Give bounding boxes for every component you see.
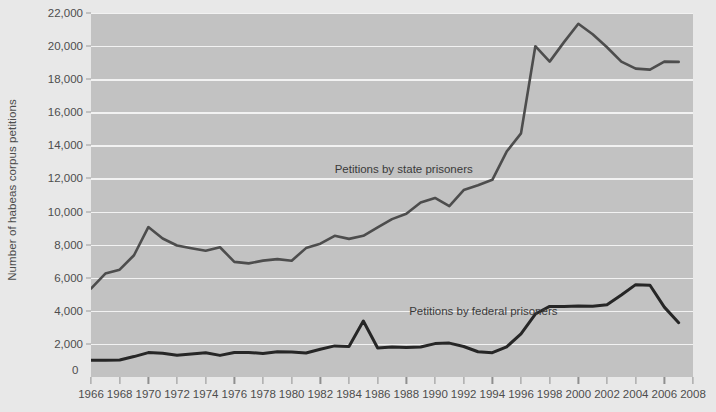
- series-line: [91, 24, 679, 289]
- x-axis-tick-mark: [434, 377, 435, 384]
- annotation-federal-prisoners: Petitions by federal prisoners: [409, 305, 557, 317]
- x-axis-tick-label: 1982: [308, 388, 334, 400]
- y-axis-tick-label: 16,000: [48, 106, 83, 118]
- annotation-state-prisoners: Petitions by state prisoners: [335, 163, 473, 175]
- x-axis-tick-label: 1986: [365, 388, 391, 400]
- x-axis-tick-label: 1994: [480, 388, 506, 400]
- y-axis-tick-label: 12,000: [48, 172, 83, 184]
- x-axis-tick-label: 2000: [566, 388, 592, 400]
- series-line: [91, 285, 679, 361]
- x-axis-tick-mark: [176, 377, 177, 384]
- y-axis-tick-label: 10,000: [48, 206, 83, 218]
- x-axis-tick-label: 1996: [508, 388, 534, 400]
- y-axis-tick-label: 4,000: [54, 305, 83, 317]
- plot-area: Petitions by state prisoners Petitions b…: [91, 13, 693, 377]
- x-axis-tick-label: 1968: [107, 388, 133, 400]
- x-axis-tick-label: 2006: [652, 388, 678, 400]
- x-axis-tick-mark: [635, 377, 636, 384]
- x-axis-tick-label: 1980: [279, 388, 305, 400]
- habeas-corpus-line-chart: Number of habeas corpus petitions 2,0004…: [0, 0, 716, 412]
- x-axis-tick-label: 1984: [336, 388, 362, 400]
- y-axis-tick-label: 14,000: [48, 139, 83, 151]
- y-axis-title-text: Number of habeas corpus petitions: [6, 99, 18, 281]
- x-axis-tick-label: 1976: [222, 388, 248, 400]
- x-axis-tick-label: 1988: [394, 388, 420, 400]
- x-axis-tick-label: 1992: [451, 388, 477, 400]
- x-axis-tick-label: 1998: [537, 388, 563, 400]
- y-axis-tick-label: 20,000: [48, 40, 83, 52]
- x-axis-tick-label: 2002: [594, 388, 620, 400]
- x-axis-tick-label: 2004: [623, 388, 649, 400]
- x-axis-tick-mark: [406, 377, 407, 384]
- x-axis-tick-mark: [664, 377, 665, 384]
- x-axis-tick-mark: [234, 377, 235, 384]
- y-axis-title: Number of habeas corpus petitions: [0, 0, 24, 380]
- x-axis-tick-mark: [148, 377, 149, 384]
- x-axis-tick-labels: 1966196819701972197419761978198019821984…: [91, 377, 693, 412]
- y-axis-tick-labels: 2,0004,0006,0008,00010,00012,00014,00016…: [24, 0, 91, 412]
- x-axis-tick-mark: [549, 377, 550, 384]
- y-axis-tick-label: 8,000: [54, 239, 83, 251]
- x-axis-tick-mark: [692, 377, 693, 384]
- x-axis-tick-mark: [119, 377, 120, 384]
- x-axis-tick-label: 2008: [680, 388, 706, 400]
- x-axis-tick-label: 1978: [250, 388, 276, 400]
- data-lines: [91, 13, 693, 377]
- x-axis-tick-label: 1970: [136, 388, 162, 400]
- y-axis-tick-label: 6,000: [54, 272, 83, 284]
- x-axis-tick-label: 1990: [422, 388, 448, 400]
- x-axis-tick-mark: [463, 377, 464, 384]
- x-axis-tick-mark: [492, 377, 493, 384]
- x-axis-tick-label: 1972: [164, 388, 190, 400]
- x-axis-tick-mark: [377, 377, 378, 384]
- x-axis-tick-label: 1966: [78, 388, 104, 400]
- x-axis-tick-mark: [90, 377, 91, 384]
- x-axis-tick-mark: [291, 377, 292, 384]
- x-axis-tick-mark: [262, 377, 263, 384]
- y-axis-zero-label: 0: [72, 364, 78, 376]
- y-axis-tick-label: 2,000: [54, 338, 83, 350]
- y-axis-tick-label: 18,000: [48, 73, 83, 85]
- x-axis-tick-mark: [606, 377, 607, 384]
- x-axis-tick-mark: [578, 377, 579, 384]
- x-axis-tick-mark: [520, 377, 521, 384]
- x-axis-tick-mark: [348, 377, 349, 384]
- x-axis-tick-label: 1974: [193, 388, 219, 400]
- x-axis-tick-mark: [320, 377, 321, 384]
- y-axis-tick-label: 22,000: [48, 7, 83, 19]
- x-axis-tick-mark: [205, 377, 206, 384]
